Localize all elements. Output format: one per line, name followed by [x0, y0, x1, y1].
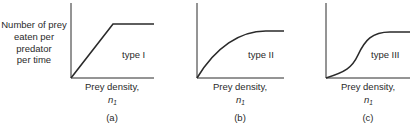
curve-label: type II: [248, 49, 274, 60]
svg-text:per time: per time: [17, 54, 51, 65]
x-variable: n1: [236, 94, 245, 106]
x-axis-label: Prey density,: [341, 81, 395, 92]
panel-caption: (c): [362, 112, 373, 123]
curve-label: type I: [122, 49, 145, 60]
x-axis-label: Prey density,: [213, 81, 267, 92]
panel-a: type I Prey density, n1 (a): [71, 3, 154, 123]
functional-response-figure: Number of prey eaten per predator per ti…: [0, 0, 410, 128]
svg-text:eaten per: eaten per: [14, 31, 54, 42]
panel-caption: (b): [234, 112, 246, 123]
panel-b: type II Prey density, n1 (b): [197, 3, 284, 123]
y-axis-label: Number of prey eaten per predator per ti…: [1, 19, 67, 65]
panel-caption: (a): [106, 112, 118, 123]
panel-c: type III Prey density, n1 (c): [326, 3, 410, 123]
svg-text:predator: predator: [16, 43, 51, 54]
svg-text:Number of prey: Number of prey: [1, 19, 67, 30]
x-variable: n1: [364, 94, 373, 106]
x-variable: n1: [108, 94, 117, 106]
x-axis-label: Prey density,: [85, 81, 139, 92]
curve-label: type III: [371, 49, 400, 60]
